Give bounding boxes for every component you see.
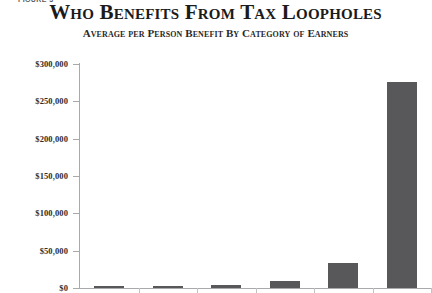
x-axis-tick bbox=[314, 288, 315, 293]
y-axis-tick bbox=[73, 213, 79, 214]
y-axis-tick-label: $0 bbox=[59, 283, 68, 293]
y-axis-tick bbox=[73, 251, 79, 252]
y-axis-tick bbox=[73, 139, 79, 140]
y-axis-line bbox=[79, 63, 80, 289]
bar[interactable] bbox=[328, 263, 358, 288]
y-axis-tick bbox=[73, 64, 79, 65]
y-axis-tick-label: $300,000 bbox=[35, 59, 68, 69]
bar[interactable] bbox=[211, 285, 241, 288]
bar[interactable] bbox=[94, 286, 124, 288]
y-axis-tick-label: $200,000 bbox=[35, 134, 68, 144]
x-axis-tick bbox=[373, 288, 374, 293]
y-axis-tick-label: $100,000 bbox=[35, 208, 68, 218]
bar[interactable] bbox=[387, 82, 417, 288]
y-axis-tick bbox=[73, 101, 79, 102]
bar[interactable] bbox=[270, 281, 300, 288]
y-axis-tick-label: $50,000 bbox=[40, 246, 68, 256]
x-axis-tick bbox=[256, 288, 257, 293]
y-axis-tick-label: $150,000 bbox=[35, 171, 68, 181]
y-axis-tick bbox=[73, 288, 79, 289]
x-axis-tick bbox=[197, 288, 198, 293]
y-axis-tick bbox=[73, 176, 79, 177]
y-axis-tick-label: $250,000 bbox=[35, 96, 68, 106]
x-axis-tick bbox=[139, 288, 140, 293]
bar[interactable] bbox=[153, 286, 183, 288]
